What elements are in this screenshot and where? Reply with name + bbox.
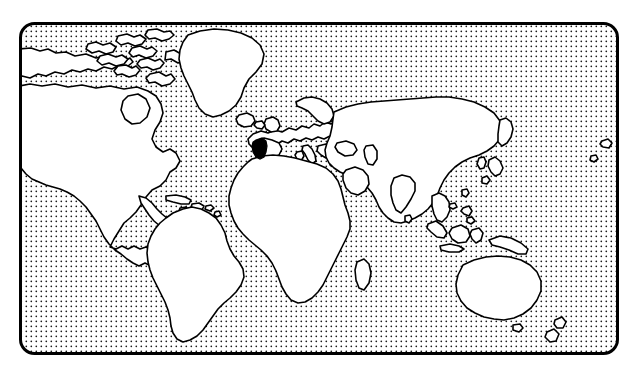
land-lesser-antilles [214, 211, 221, 217]
land-japan-south [482, 176, 490, 184]
land-korea [477, 157, 486, 169]
land-arctic-islands-1 [86, 42, 116, 54]
land-arctic-islands-6 [137, 58, 164, 70]
world-map-figure: World map with highlighted country equir… [0, 0, 635, 376]
land-hainan [449, 203, 457, 209]
land-arctic-islands-7 [114, 65, 140, 77]
land-arctic-islands-3 [116, 34, 146, 46]
land-pacific-island-1 [600, 139, 612, 148]
land-arctic-islands-5 [145, 29, 174, 41]
land-british-isles [264, 117, 280, 132]
land-arctic-islands-4 [129, 46, 157, 58]
land-iceland [236, 113, 255, 127]
land-arctic-islands-2 [97, 54, 128, 66]
world-map-svg [0, 0, 635, 376]
